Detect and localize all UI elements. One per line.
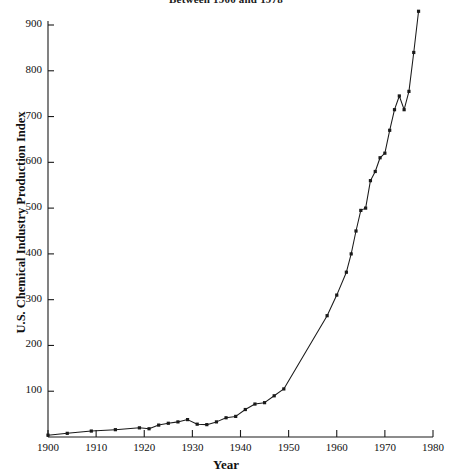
y-axis-title: U.S. Chemical Industry Production Index [14, 98, 29, 348]
data-point [359, 209, 362, 212]
x-axis-tick-label: 1930 [167, 441, 217, 453]
data-point [157, 424, 160, 427]
data-point [263, 401, 266, 404]
data-point [378, 156, 381, 159]
data-point [398, 94, 401, 97]
x-axis-tick-label: 1920 [119, 441, 169, 453]
data-point [354, 229, 357, 232]
data-point [350, 252, 353, 255]
data-point [234, 415, 237, 418]
data-point [186, 418, 189, 421]
data-point [90, 429, 93, 432]
axes [48, 21, 433, 437]
data-point [407, 90, 410, 93]
data-line [48, 11, 419, 435]
data-point [46, 434, 49, 437]
line-chart-plot [0, 0, 452, 476]
data-point [273, 394, 276, 397]
data-point [388, 129, 391, 132]
data-point [215, 420, 218, 423]
x-axis-ticks [48, 430, 433, 437]
data-point [282, 387, 285, 390]
data-point [403, 108, 406, 111]
data-point [326, 314, 329, 317]
data-point [393, 108, 396, 111]
data-point [114, 428, 117, 431]
data-point [224, 416, 227, 419]
y-axis-tick-label: 900 [0, 17, 42, 29]
data-point [364, 207, 367, 210]
x-axis-tick-label: 1910 [71, 441, 121, 453]
data-point [196, 423, 199, 426]
x-axis-tick-label: 1960 [312, 441, 362, 453]
x-axis-tick-label: 1980 [408, 441, 452, 453]
data-point [335, 293, 338, 296]
data-point [66, 432, 69, 435]
y-axis-tick-label: 800 [0, 63, 42, 75]
chart-figure: Between 1900 and 1978 100200300400500600… [0, 0, 452, 476]
data-point [369, 179, 372, 182]
data-point [205, 423, 208, 426]
data-point [147, 427, 150, 430]
y-axis-ticks [48, 25, 54, 391]
data-point [412, 51, 415, 54]
data-point-markers [46, 10, 420, 437]
x-axis-tick-label: 1970 [360, 441, 410, 453]
data-point [253, 402, 256, 405]
x-axis-tick-label: 1900 [23, 441, 73, 453]
data-point [138, 426, 141, 429]
x-axis-title: Year [0, 457, 452, 473]
x-axis-tick-label: 1940 [216, 441, 266, 453]
data-point [176, 420, 179, 423]
data-point [374, 170, 377, 173]
data-point [345, 271, 348, 274]
data-point [417, 10, 420, 13]
y-axis-tick-label: 100 [0, 383, 42, 395]
data-point [383, 152, 386, 155]
data-point [167, 422, 170, 425]
data-point [244, 408, 247, 411]
x-axis-tick-label: 1950 [264, 441, 314, 453]
